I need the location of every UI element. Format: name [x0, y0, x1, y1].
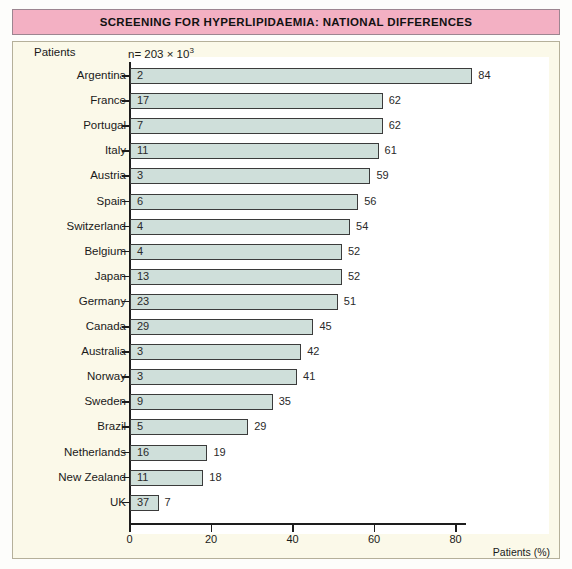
y-axis-tick: [122, 477, 129, 479]
chart-figure: SCREENING FOR HYPERLIPIDAEMIA: NATIONAL …: [0, 0, 572, 569]
bar-end-value: 52: [348, 270, 360, 282]
y-axis-tick: [122, 175, 129, 177]
bar-end-value: 41: [303, 370, 315, 382]
bar: 5: [130, 419, 248, 435]
bar-row-country-label: Netherlands: [64, 446, 126, 458]
y-axis-tick: [122, 251, 129, 253]
bar-row: France1762: [0, 93, 572, 109]
x-axis-title: Patients (%): [493, 546, 550, 558]
x-axis-tick-label: 0: [126, 533, 132, 545]
bar-row: Canada2945: [0, 319, 572, 335]
bar-row: UK377: [0, 495, 572, 511]
bar-row-country-label: Canada: [86, 320, 126, 332]
bar-row-country-label: Belgium: [84, 245, 126, 257]
bar-row: Austria359: [0, 168, 572, 184]
x-axis-tick-label: 20: [205, 533, 217, 545]
bar-inner-value: 4: [137, 220, 143, 233]
bar-inner-value: 23: [137, 295, 149, 308]
bar-end-value: 18: [209, 471, 221, 483]
bar-end-value: 51: [344, 295, 356, 307]
bar-row: Portugal762: [0, 118, 572, 134]
y-axis-tick: [122, 326, 129, 328]
bar: 13: [130, 269, 342, 285]
bar-end-value: 45: [319, 320, 331, 332]
bar-row: Japan1352: [0, 269, 572, 285]
y-axis-tick: [122, 301, 129, 303]
y-axis-tick: [122, 75, 129, 77]
bar: 16: [130, 445, 207, 461]
x-axis-tick: [292, 525, 294, 532]
bar-end-value: 84: [478, 69, 490, 81]
bar: 3: [130, 168, 370, 184]
bar: 4: [130, 219, 350, 235]
y-axis-tick: [122, 452, 129, 454]
bar-end-value: 42: [307, 345, 319, 357]
bar: 17: [130, 93, 383, 109]
bar-end-value: 29: [254, 420, 266, 432]
bar: 23: [130, 294, 338, 310]
y-axis-tick: [122, 201, 129, 203]
page-title: SCREENING FOR HYPERLIPIDAEMIA: NATIONAL …: [100, 16, 473, 28]
y-axis-tick: [122, 125, 129, 127]
bar-row-country-label: Argentina: [77, 69, 126, 81]
x-axis-tick-label: 80: [449, 533, 461, 545]
bar-end-value: 62: [389, 119, 401, 131]
bar: 37: [130, 495, 159, 511]
bar-row-country-label: Germany: [79, 295, 126, 307]
x-axis-tick: [455, 525, 457, 532]
bar-row-country-label: Sweden: [84, 395, 126, 407]
bar-inner-value: 4: [137, 245, 143, 258]
bar-inner-value: 37: [137, 496, 149, 509]
bar-row-country-label: New Zealand: [58, 471, 126, 483]
y-axis-tick: [122, 276, 129, 278]
y-axis-tick: [122, 376, 129, 378]
y-axis-tick: [122, 502, 129, 504]
bar: 11: [130, 143, 379, 159]
bar: 3: [130, 369, 297, 385]
bar-row-country-label: Norway: [87, 370, 126, 382]
y-axis-tick: [122, 401, 129, 403]
bar: 11: [130, 470, 203, 486]
bar: 3: [130, 344, 301, 360]
bar-row-country-label: Australia: [81, 345, 126, 357]
bar-inner-value: 7: [137, 119, 143, 132]
bar-end-value: 61: [385, 144, 397, 156]
bar-inner-value: 3: [137, 345, 143, 358]
bar-row: Brazil529: [0, 419, 572, 435]
bar-inner-value: 5: [137, 420, 143, 433]
bar-row: Sweden935: [0, 394, 572, 410]
x-axis-tick: [211, 525, 213, 532]
y-axis-tick: [122, 226, 129, 228]
bar-row: Argentina284: [0, 68, 572, 84]
y-axis-tick: [122, 426, 129, 428]
bar-inner-value: 3: [137, 169, 143, 182]
bar: 2: [130, 68, 472, 84]
y-axis-tick: [122, 150, 129, 152]
x-axis-line: [129, 523, 466, 525]
bar-end-value: 62: [389, 94, 401, 106]
bar-row: Germany2351: [0, 294, 572, 310]
bar-inner-value: 16: [137, 446, 149, 459]
bar-row: Norway341: [0, 369, 572, 385]
bar-row: Spain656: [0, 194, 572, 210]
bar-row-country-label: Portugal: [83, 119, 126, 131]
bar-end-value: 52: [348, 245, 360, 257]
bar: 29: [130, 319, 313, 335]
bar: 7: [130, 118, 383, 134]
bar-end-value: 54: [356, 220, 368, 232]
y-axis-tick: [122, 351, 129, 353]
bar-inner-value: 11: [137, 144, 148, 157]
bar-end-value: 35: [279, 395, 291, 407]
bar-inner-value: 9: [137, 395, 143, 408]
bar: 9: [130, 394, 273, 410]
x-axis-tick-label: 60: [368, 533, 380, 545]
bar-row: Belgium452: [0, 244, 572, 260]
bar: 4: [130, 244, 342, 260]
bar-row-country-label: France: [90, 94, 126, 106]
bar-row: New Zealand1118: [0, 470, 572, 486]
bar-end-value: 7: [165, 496, 171, 508]
patients-column-header: Patients: [34, 46, 76, 58]
bar-end-value: 56: [364, 195, 376, 207]
bar-row-country-label: Switzerland: [67, 220, 126, 232]
y-axis-tick: [122, 100, 129, 102]
